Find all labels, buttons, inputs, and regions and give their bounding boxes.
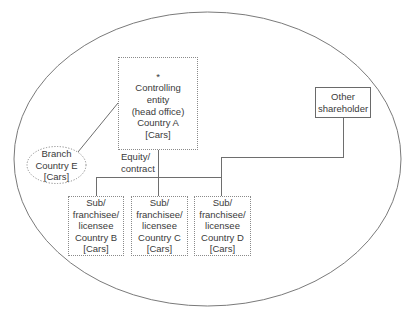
sub-d-line-3: licensee [205,220,240,232]
sub-b-line-3: licensee [79,220,114,232]
node-branch: Branch Country E [Cars] [27,147,86,184]
sub-b-line-2: franchisee/ [73,209,119,221]
node-other-shareholder: Other shareholder [315,87,371,118]
head-office-asterisk: * [156,71,160,83]
head-office-line-3: (head office) [132,106,185,118]
head-office-line-2: entity [147,94,170,106]
node-head-office: * Controlling entity (head office) Count… [118,57,198,150]
sub-b-line-5: [Cars] [83,243,108,255]
edge-label-equity-contract: Equity/ contract [121,151,155,175]
sub-c-line-3: licensee [142,220,177,232]
sub-c-line-4: Country C [138,232,181,244]
head-office-line-4: Country A [137,117,179,129]
sub-c-line-1: Sub/ [150,197,170,209]
sub-d-line-1: Sub/ [213,197,233,209]
head-office-line-5: [Cars] [145,129,170,141]
edge-label-line-1: Equity/ [121,151,155,163]
node-sub-country-d: Sub/ franchisee/ licensee Country D [Car… [194,196,251,256]
shareholder-line-2: shareholder [318,103,368,115]
shareholder-line-1: Other [331,91,355,103]
head-office-line-1: Controlling [135,82,180,94]
sub-b-line-1: Sub/ [86,197,106,209]
branch-line-2: Country E [35,160,77,172]
connector-head-branch [78,103,118,152]
sub-d-line-4: Country D [201,232,244,244]
org-diagram: * Controlling entity (head office) Count… [0,0,414,318]
branch-line-3: [Cars] [44,171,69,183]
branch-line-1: Branch [41,148,71,160]
sub-d-line-5: [Cars] [210,243,235,255]
node-sub-country-c: Sub/ franchisee/ licensee Country C [Car… [131,196,188,256]
sub-c-line-5: [Cars] [147,243,172,255]
edge-label-line-2: contract [121,163,155,175]
sub-b-line-4: Country B [75,232,117,244]
sub-c-line-2: franchisee/ [136,209,182,221]
sub-d-line-2: franchisee/ [199,209,245,221]
node-sub-country-b: Sub/ franchisee/ licensee Country B [Car… [68,196,124,256]
